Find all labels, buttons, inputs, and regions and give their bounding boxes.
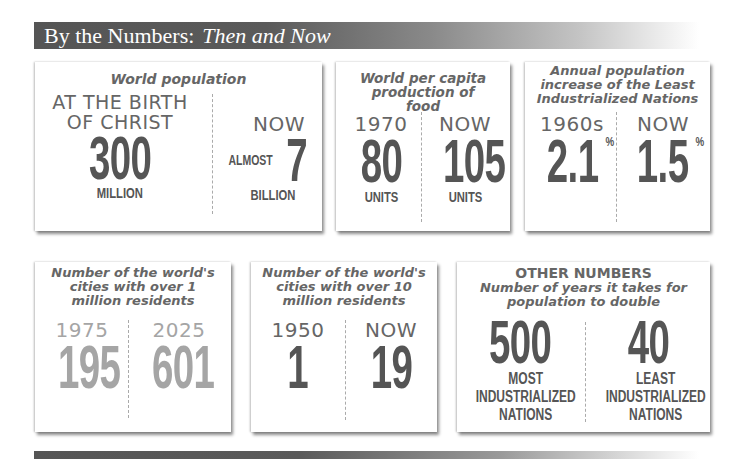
card-cities-1m: Number of the world's cities with over 1… (35, 262, 231, 432)
footer-bar (34, 451, 699, 459)
stat-now: NOW 1.5% (620, 114, 706, 188)
stat-now: NOW 19 (349, 320, 433, 394)
card-title: Number of the world's cities with over 1… (251, 266, 437, 308)
stat-prefix: ALMOST (228, 152, 272, 168)
percent-sign: % (606, 134, 615, 149)
header-bar: By the Numbers:Then and Now (34, 22, 699, 49)
stat-value: 2.1 (547, 134, 599, 188)
card-world-population: World population AT THE BIRTH OF CHRIST … (35, 62, 322, 231)
stat-then: 1960s 2.1% (531, 114, 613, 188)
divider (128, 320, 129, 418)
card-cities-10m: Number of the world's cities with over 1… (251, 262, 437, 432)
stat-then: 1950 1 (255, 320, 341, 394)
stat-value: 601 (152, 340, 214, 394)
card-title: World population (35, 72, 322, 86)
divider (616, 112, 617, 222)
card-population-increase: Annual population increase of the Least … (525, 62, 710, 231)
divider (585, 322, 586, 422)
stat-value: 40 (627, 314, 669, 370)
stat-then: 1970 80 UNITS (342, 114, 420, 206)
stat-value: 1 (288, 340, 309, 394)
stat-unit: MOST INDUSTRIALIZED NATIONS (476, 370, 576, 424)
stat-value: 19 (370, 340, 412, 394)
divider (212, 94, 213, 214)
stat-unit: LEAST INDUSTRIALIZED NATIONS (606, 370, 706, 424)
card-title: Number of years it takes for population … (457, 281, 710, 309)
stat-now: NOW 105 UNITS (424, 114, 506, 206)
stat-then: 1975 195 (39, 320, 125, 394)
card-food-production: World per capita production of food 1970… (336, 62, 510, 231)
stat-unit: BILLION (251, 186, 296, 203)
stat-value: 500 (489, 314, 551, 370)
stat-value: 195 (58, 340, 120, 394)
card-title: Number of the world's cities with over 1… (35, 266, 231, 308)
stat-unit: MILLION (97, 184, 143, 201)
stat-value: 7 (286, 134, 307, 186)
divider (345, 320, 346, 420)
title-subtitle: Then and Now (202, 23, 330, 48)
stat-least: 40 LEAST INDUSTRIALIZED NATIONS (589, 314, 707, 424)
stat-now: NOW ALMOST7 BILLION (217, 114, 317, 204)
stat-most: 500 MOST INDUSTRIALIZED NATIONS (459, 314, 581, 424)
card-population-double: OTHER NUMBERS Number of years it takes f… (457, 262, 710, 432)
percent-sign: % (695, 134, 704, 149)
stat-now: 2025 601 (133, 320, 225, 394)
card-heading: OTHER NUMBERS (457, 266, 710, 280)
stat-then: AT THE BIRTH OF CHRIST 300 MILLION (35, 92, 205, 202)
stat-value: 1.5 (636, 134, 688, 188)
stat-value: 105 (443, 134, 505, 188)
title-main: By the Numbers: (44, 23, 194, 48)
card-title: Annual population increase of the Least … (525, 64, 710, 106)
stat-unit: UNITS (448, 188, 482, 205)
stat-value: 300 (89, 132, 151, 184)
card-title: World per capita production of food (336, 71, 510, 113)
stat-unit: UNITS (364, 188, 398, 205)
stat-value: 80 (360, 134, 402, 188)
page-title: By the Numbers:Then and Now (44, 23, 331, 49)
divider (421, 112, 422, 222)
